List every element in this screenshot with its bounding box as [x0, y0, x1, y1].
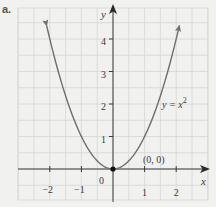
ticks: −2−1121234	[42, 36, 178, 198]
equation-label: y = x2	[161, 96, 187, 110]
x-tick-label: −2	[42, 184, 53, 195]
y-axis-label: y	[100, 8, 106, 20]
y-tick-label: 1	[101, 134, 106, 145]
parabola-chart: −2−1121234 a. y x 0 (0, 0) y = x2	[0, 0, 216, 207]
point-label-origin: (0, 0)	[143, 154, 165, 166]
origin-point	[110, 166, 115, 171]
equation-main: y = x	[161, 99, 183, 110]
y-tick-label: 4	[101, 36, 106, 47]
x-tick-label: −1	[74, 184, 85, 195]
x-tick-label: 2	[174, 187, 179, 198]
y-tick-label: 3	[101, 69, 106, 80]
x-tick-label: 1	[142, 187, 147, 198]
part-label: a.	[2, 3, 11, 15]
equation-exponent: 2	[183, 96, 187, 105]
origin-label: 0	[99, 175, 104, 186]
x-axis-label: x	[200, 175, 206, 187]
y-tick-label: 2	[101, 101, 106, 112]
